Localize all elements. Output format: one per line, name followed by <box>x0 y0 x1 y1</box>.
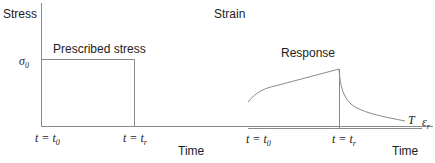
right-t0-tick-label: t = t0 <box>246 133 271 148</box>
response-label: Response <box>281 47 335 59</box>
prescribed-stress-label: Prescribed stress <box>53 43 146 55</box>
strain-response-curve <box>248 69 405 121</box>
left-time-axis-label: Time <box>178 145 204 157</box>
right-tr-tick-label: t = tr <box>332 133 356 148</box>
T-label: T <box>408 114 415 126</box>
left-t0-tick-label: t = t0 <box>35 132 60 147</box>
stress-axis-label: Stress <box>3 8 37 20</box>
diagram-canvas <box>0 0 435 163</box>
prescribed-stress-curve <box>42 60 135 127</box>
strain-axis-label: Strain <box>214 8 245 20</box>
sigma0-label: σ0 <box>19 55 29 70</box>
epsilon-r-label: εr <box>422 116 430 131</box>
right-time-axis-label: Time <box>392 145 418 157</box>
left-tr-tick-label: t = tr <box>123 132 147 147</box>
